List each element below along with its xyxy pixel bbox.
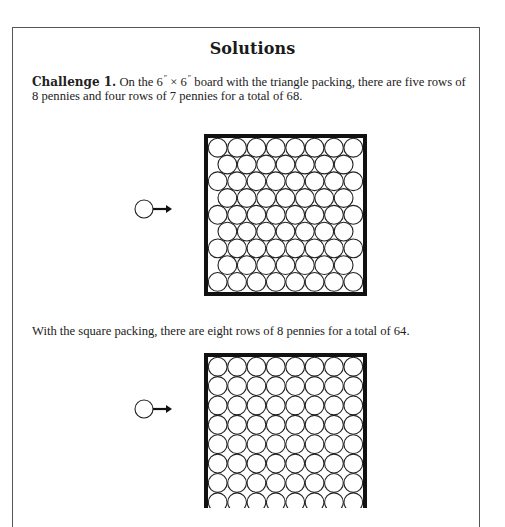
penny <box>305 205 324 224</box>
penny <box>218 155 237 174</box>
penny <box>266 493 285 508</box>
penny <box>344 357 363 376</box>
penny <box>305 239 324 258</box>
penny <box>228 396 247 415</box>
penny <box>315 256 334 275</box>
penny <box>208 435 227 454</box>
penny <box>276 189 295 208</box>
penny <box>286 493 305 508</box>
penny <box>325 273 344 292</box>
penny <box>266 396 285 415</box>
penny <box>247 474 266 493</box>
penny <box>344 172 363 191</box>
penny <box>325 357 344 376</box>
penny <box>208 357 227 376</box>
penny <box>208 493 227 508</box>
penny <box>325 377 344 396</box>
penny <box>208 273 227 292</box>
penny <box>247 172 266 191</box>
penny <box>286 239 305 258</box>
penny <box>247 454 266 473</box>
penny <box>228 454 247 473</box>
penny <box>305 454 324 473</box>
penny <box>266 435 285 454</box>
penny <box>257 155 276 174</box>
penny <box>228 415 247 434</box>
penny <box>334 222 353 241</box>
penny <box>228 239 247 258</box>
penny <box>344 138 363 157</box>
penny <box>305 493 324 508</box>
penny <box>247 138 266 157</box>
penny <box>325 172 344 191</box>
penny <box>325 138 344 157</box>
penny <box>344 239 363 258</box>
penny <box>325 396 344 415</box>
penny <box>218 256 237 275</box>
square-pennies <box>208 357 362 508</box>
penny <box>208 474 227 493</box>
penny <box>286 172 305 191</box>
penny <box>325 239 344 258</box>
penny <box>344 493 363 508</box>
penny <box>228 273 247 292</box>
triangle-packing-figure <box>135 136 365 294</box>
penny <box>237 155 256 174</box>
penny <box>237 256 256 275</box>
penny <box>228 377 247 396</box>
penny <box>228 474 247 493</box>
penny <box>237 189 256 208</box>
penny <box>228 138 247 157</box>
penny <box>228 357 247 376</box>
penny <box>257 222 276 241</box>
penny <box>247 273 266 292</box>
penny <box>286 474 305 493</box>
penny <box>344 205 363 224</box>
penny <box>276 256 295 275</box>
penny <box>315 189 334 208</box>
penny <box>266 377 285 396</box>
penny <box>305 357 324 376</box>
penny <box>315 155 334 174</box>
penny <box>305 396 324 415</box>
penny <box>334 189 353 208</box>
penny <box>286 415 305 434</box>
penny <box>344 435 363 454</box>
penny <box>228 435 247 454</box>
penny <box>286 138 305 157</box>
penny <box>266 239 285 258</box>
penny <box>208 205 227 224</box>
penny <box>237 222 256 241</box>
penny <box>325 205 344 224</box>
penny-with-arrow-icon <box>135 400 172 418</box>
penny <box>286 377 305 396</box>
penny <box>266 357 285 376</box>
penny <box>344 474 363 493</box>
penny-with-arrow-icon <box>135 200 172 218</box>
penny <box>257 256 276 275</box>
penny <box>208 454 227 473</box>
penny <box>286 454 305 473</box>
penny <box>305 474 324 493</box>
penny <box>295 256 314 275</box>
penny <box>218 189 237 208</box>
penny <box>305 377 324 396</box>
penny <box>247 415 266 434</box>
penny <box>208 172 227 191</box>
penny <box>266 474 285 493</box>
penny <box>305 172 324 191</box>
penny <box>286 273 305 292</box>
penny <box>344 396 363 415</box>
penny <box>266 273 285 292</box>
penny <box>247 377 266 396</box>
penny <box>334 256 353 275</box>
penny <box>228 205 247 224</box>
penny <box>334 155 353 174</box>
triangle-pennies <box>208 138 362 291</box>
penny <box>286 205 305 224</box>
penny <box>247 396 266 415</box>
penny <box>228 172 247 191</box>
penny <box>344 415 363 434</box>
penny <box>295 155 314 174</box>
